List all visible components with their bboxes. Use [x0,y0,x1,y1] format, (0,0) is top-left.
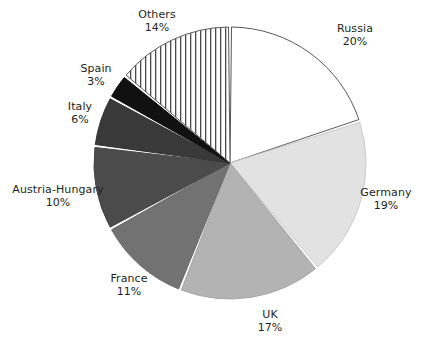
pie-label-russia-value: 20% [315,35,395,48]
pie-label-uk-name: UK [240,308,300,321]
pie-label-germany: Germany 19% [347,186,425,212]
pie-label-austria-hungary-name: Austria-Hungary [2,183,114,196]
pie-label-austria-hungary: Austria-Hungary 10% [2,183,114,209]
pie-label-russia-name: Russia [315,22,395,35]
pie-label-others-value: 14% [124,21,190,34]
pie-label-italy-value: 6% [52,113,108,126]
pie-label-italy-name: Italy [52,100,108,113]
pie-label-others-name: Others [124,8,190,21]
pie-label-spain-name: Spain [68,62,124,75]
pie-slices [94,27,366,299]
pie-label-italy: Italy 6% [52,100,108,126]
pie-label-spain-value: 3% [68,75,124,88]
pie-label-others: Others 14% [124,8,190,34]
pie-label-france-name: France [95,272,163,285]
pie-label-germany-value: 19% [347,199,425,212]
pie-label-uk-value: 17% [240,321,300,334]
pie-label-spain: Spain 3% [68,62,124,88]
pie-label-uk: UK 17% [240,308,300,334]
pie-label-austria-hungary-value: 10% [2,196,114,209]
pie-label-france: France 11% [95,272,163,298]
pie-chart-canvas [0,0,427,344]
pie-label-russia: Russia 20% [315,22,395,48]
pie-chart: Russia 20% Germany 19% UK 17% France 11%… [0,0,427,344]
pie-label-france-value: 11% [95,285,163,298]
pie-label-germany-name: Germany [347,186,425,199]
